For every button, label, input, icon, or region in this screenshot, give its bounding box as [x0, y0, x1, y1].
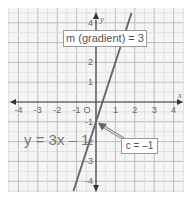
svg-text:4: 4 [88, 18, 93, 28]
gradient-label: m (gradient) = 3 [63, 30, 147, 47]
svg-text:2: 2 [88, 57, 93, 67]
intercept-label: c = –1 [121, 138, 158, 154]
svg-text:-1: -1 [73, 105, 81, 115]
equation-label: y = 3x – 1 [24, 131, 89, 148]
svg-text:-4: -4 [14, 105, 22, 115]
svg-text:-3: -3 [34, 105, 42, 115]
svg-text:1: 1 [113, 105, 118, 115]
svg-text:O: O [83, 105, 90, 115]
svg-text:1: 1 [88, 77, 93, 87]
svg-text:-2: -2 [53, 105, 61, 115]
svg-text:-3: -3 [85, 156, 93, 166]
svg-text:3: 3 [152, 105, 157, 115]
svg-text:x: x [177, 90, 182, 100]
svg-text:-4: -4 [85, 176, 93, 186]
svg-text:-1: -1 [85, 117, 93, 127]
svg-text:4: 4 [171, 105, 176, 115]
svg-text:y: y [99, 14, 104, 24]
svg-text:2: 2 [132, 105, 137, 115]
